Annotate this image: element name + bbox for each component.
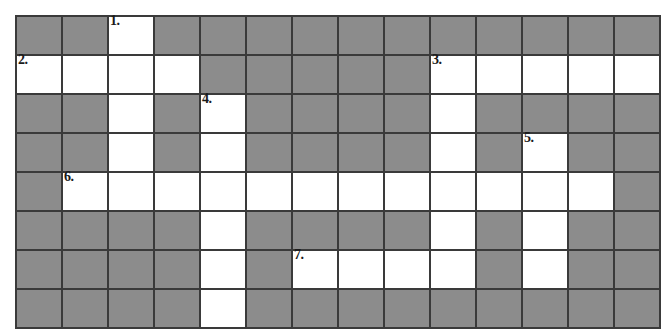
- crossword-cell-block: [16, 289, 62, 328]
- crossword-cell-block: [246, 133, 292, 172]
- crossword-cell-open[interactable]: [200, 250, 246, 289]
- crossword-cell-block: [108, 250, 154, 289]
- clue-number: 3.: [432, 53, 442, 67]
- crossword-cell-open[interactable]: [200, 172, 246, 211]
- crossword-cell-block: [154, 211, 200, 250]
- crossword-cell-open[interactable]: 2.: [16, 55, 62, 94]
- clue-number: 6.: [64, 170, 74, 184]
- crossword-cell-block: [338, 133, 384, 172]
- clue-number: 4.: [202, 92, 212, 106]
- crossword-cell-block: [384, 289, 430, 328]
- crossword-cell-open[interactable]: [338, 250, 384, 289]
- crossword-cell-block: [200, 16, 246, 55]
- crossword-cell-open[interactable]: 7.: [292, 250, 338, 289]
- crossword-cell-block: [62, 16, 108, 55]
- crossword-cell-block: [154, 289, 200, 328]
- crossword-cell-block: [384, 133, 430, 172]
- clue-number: 1.: [110, 14, 120, 28]
- crossword-cell-open[interactable]: [154, 172, 200, 211]
- crossword-cell-block: [522, 16, 568, 55]
- crossword-row: 4.: [16, 94, 660, 133]
- crossword-cell-block: [246, 289, 292, 328]
- crossword-cell-block: [568, 94, 614, 133]
- crossword-cell-open[interactable]: [476, 172, 522, 211]
- crossword-cell-block: [246, 211, 292, 250]
- crossword-cell-block: [108, 211, 154, 250]
- crossword-cell-block: [614, 172, 660, 211]
- crossword-cell-open[interactable]: [200, 289, 246, 328]
- crossword-cell-block: [16, 172, 62, 211]
- crossword-cell-block: [568, 133, 614, 172]
- crossword-cell-open[interactable]: [108, 55, 154, 94]
- crossword-cell-block: [62, 211, 108, 250]
- crossword-cell-block: [292, 289, 338, 328]
- crossword-cell-block: [614, 250, 660, 289]
- crossword-cell-open[interactable]: [522, 172, 568, 211]
- crossword-cell-block: [384, 55, 430, 94]
- crossword-cell-block: [614, 211, 660, 250]
- crossword-cell-open[interactable]: [568, 172, 614, 211]
- crossword-cell-open[interactable]: [522, 250, 568, 289]
- crossword-cell-block: [154, 94, 200, 133]
- crossword-cell-open[interactable]: [384, 250, 430, 289]
- crossword-cell-block: [154, 16, 200, 55]
- crossword-cell-block: [568, 289, 614, 328]
- crossword-cell-block: [246, 250, 292, 289]
- crossword-cell-open[interactable]: 6.: [62, 172, 108, 211]
- crossword-cell-block: [338, 16, 384, 55]
- crossword-row: 5.: [16, 133, 660, 172]
- crossword-cell-open[interactable]: [430, 94, 476, 133]
- crossword-grid: 1.2.3.4.5.6.7.: [15, 15, 661, 329]
- crossword-cell-block: [154, 250, 200, 289]
- crossword-row: 6.: [16, 172, 660, 211]
- crossword-cell-open[interactable]: [292, 172, 338, 211]
- crossword-cell-block: [292, 16, 338, 55]
- crossword-cell-open[interactable]: [154, 55, 200, 94]
- crossword-cell-block: [568, 16, 614, 55]
- crossword-cell-block: [338, 289, 384, 328]
- crossword-cell-block: [16, 16, 62, 55]
- crossword-cell-open[interactable]: [430, 211, 476, 250]
- crossword-cell-open[interactable]: [108, 172, 154, 211]
- crossword-cell-open[interactable]: [430, 133, 476, 172]
- crossword-cell-block: [430, 289, 476, 328]
- crossword-cell-open[interactable]: [200, 133, 246, 172]
- crossword-cell-block: [476, 289, 522, 328]
- crossword-cell-block: [384, 16, 430, 55]
- crossword-cell-open[interactable]: [108, 133, 154, 172]
- crossword-cell-block: [476, 16, 522, 55]
- crossword-cell-open[interactable]: 1.: [108, 16, 154, 55]
- crossword-cell-block: [522, 94, 568, 133]
- crossword-cell-open[interactable]: [62, 55, 108, 94]
- crossword-cell-block: [614, 289, 660, 328]
- crossword-cell-block: [338, 211, 384, 250]
- crossword-cell-open[interactable]: 5.: [522, 133, 568, 172]
- crossword-cell-open[interactable]: [476, 55, 522, 94]
- crossword-cell-open[interactable]: 4.: [200, 94, 246, 133]
- clue-number: 5.: [524, 131, 534, 145]
- crossword-cell-block: [154, 133, 200, 172]
- crossword-cell-open[interactable]: [384, 172, 430, 211]
- crossword-cell-block: [292, 133, 338, 172]
- crossword-cell-open[interactable]: 3.: [430, 55, 476, 94]
- crossword-cell-block: [62, 250, 108, 289]
- clue-number: 2.: [18, 53, 28, 67]
- crossword-cell-open[interactable]: [522, 211, 568, 250]
- crossword-row: 7.: [16, 250, 660, 289]
- crossword-cell-block: [62, 94, 108, 133]
- crossword-cell-block: [62, 133, 108, 172]
- crossword-cell-block: [384, 211, 430, 250]
- crossword-cell-open[interactable]: [200, 211, 246, 250]
- crossword-cell-block: [292, 94, 338, 133]
- crossword-row: [16, 289, 660, 328]
- crossword-cell-open[interactable]: [614, 55, 660, 94]
- crossword-cell-open[interactable]: [522, 55, 568, 94]
- crossword-cell-open[interactable]: [246, 172, 292, 211]
- crossword-cell-open[interactable]: [108, 94, 154, 133]
- crossword-cell-open[interactable]: [568, 55, 614, 94]
- crossword-cell-block: [292, 211, 338, 250]
- crossword-cell-block: [476, 250, 522, 289]
- crossword-cell-open[interactable]: [430, 250, 476, 289]
- crossword-cell-open[interactable]: [338, 172, 384, 211]
- crossword-cell-open[interactable]: [430, 172, 476, 211]
